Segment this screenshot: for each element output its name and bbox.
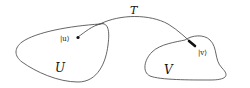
label-t: T bbox=[130, 4, 139, 17]
point-u bbox=[76, 36, 79, 39]
diagram-canvas: T U V |u⟩ |v⟩ bbox=[0, 0, 250, 88]
point-v bbox=[189, 41, 195, 46]
label-v-region: V bbox=[164, 63, 174, 77]
label-state-u: |u⟩ bbox=[60, 35, 70, 43]
label-u-region: U bbox=[55, 61, 66, 75]
label-state-v: |v⟩ bbox=[198, 49, 207, 57]
region-v-boundary bbox=[145, 36, 226, 80]
